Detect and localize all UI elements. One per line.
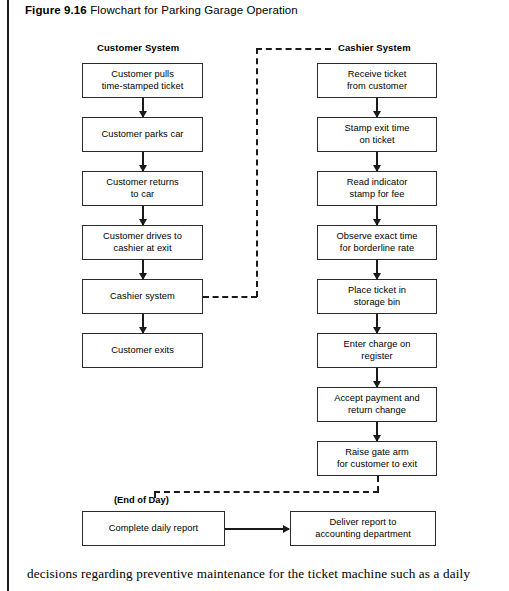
node-line-1: Cashier system bbox=[110, 291, 175, 303]
flow-node-accept-payment[interactable]: Accept payment and return change bbox=[317, 387, 437, 422]
node-line-1: Stamp exit time bbox=[345, 123, 410, 135]
flow-node-customer-parks-car[interactable]: Customer parks car bbox=[82, 117, 203, 152]
node-line-2: to car bbox=[106, 189, 179, 201]
edge-k7-k8 bbox=[376, 422, 378, 441]
edge-k5-k6 bbox=[376, 314, 378, 333]
node-line-2: cashier at exit bbox=[103, 243, 182, 255]
node-line-2: for borderline rate bbox=[337, 243, 418, 255]
edge-k1-k2 bbox=[376, 98, 378, 117]
flow-node-raise-gate-arm[interactable]: Raise gate arm for customer to exit bbox=[317, 441, 437, 476]
node-line-1: Customer pulls bbox=[102, 69, 184, 81]
flow-node-enter-charge-on-register[interactable]: Enter charge on register bbox=[317, 333, 437, 368]
node-line-1: Observe exact time bbox=[337, 231, 418, 243]
flow-node-receive-ticket[interactable]: Receive ticket from customer bbox=[317, 63, 437, 98]
figure-page: Figure 9.16 Flowchart for Parking Garage… bbox=[0, 0, 509, 591]
node-line-1: Customer returns bbox=[106, 177, 179, 189]
node-line-2: on ticket bbox=[345, 135, 410, 147]
node-line-1: Raise gate arm bbox=[337, 447, 417, 459]
flow-node-cashier-system[interactable]: Cashier system bbox=[82, 279, 203, 314]
node-line-1: Customer exits bbox=[111, 345, 174, 357]
edge-k6-k7 bbox=[376, 368, 378, 387]
flow-node-place-ticket-in-storage-bin[interactable]: Place ticket in storage bin bbox=[317, 279, 437, 314]
flow-node-observe-exact-time[interactable]: Observe exact time for borderline rate bbox=[317, 225, 437, 260]
flow-node-customer-drives-to-cashier[interactable]: Customer drives to cashier at exit bbox=[82, 225, 203, 260]
node-line-2: time-stamped ticket bbox=[102, 81, 184, 93]
figure-caption: Figure 9.16 Flowchart for Parking Garage… bbox=[25, 4, 298, 16]
node-line-1: Place ticket in bbox=[348, 285, 406, 297]
node-line-1: Customer drives to bbox=[103, 231, 182, 243]
flow-node-stamp-exit-time[interactable]: Stamp exit time on ticket bbox=[317, 117, 437, 152]
dashed-edge-cashier-system-top bbox=[256, 48, 331, 50]
node-line-2: return change bbox=[334, 405, 420, 417]
node-line-2: from customer bbox=[347, 81, 407, 93]
node-line-1: Deliver report to bbox=[315, 517, 411, 529]
end-of-day-label: (End of Day) bbox=[114, 495, 169, 505]
flow-node-complete-daily-report[interactable]: Complete daily report bbox=[82, 511, 225, 546]
edge-e1-e2 bbox=[225, 528, 289, 530]
edge-c5-c6 bbox=[142, 314, 144, 333]
dashed-edge-end-of-day-vertical bbox=[377, 476, 379, 492]
node-line-2: stamp for fee bbox=[347, 189, 408, 201]
edge-c1-c2 bbox=[142, 98, 144, 117]
column-header-cashier-system: Cashier System bbox=[338, 42, 411, 53]
dashed-edge-end-of-day-horizontal bbox=[154, 491, 379, 493]
node-line-1: Read indicator bbox=[347, 177, 408, 189]
figure-number: Figure 9.16 bbox=[25, 4, 87, 16]
column-header-customer-system: Customer System bbox=[97, 42, 179, 53]
edge-k3-k4 bbox=[376, 206, 378, 225]
edge-c2-c3 bbox=[142, 152, 144, 171]
node-line-1: Enter charge on bbox=[344, 339, 411, 351]
edge-c3-c4 bbox=[142, 206, 144, 225]
node-line-1: Accept payment and bbox=[334, 393, 420, 405]
edge-k4-k5 bbox=[376, 260, 378, 279]
flow-node-customer-exits[interactable]: Customer exits bbox=[82, 333, 203, 368]
node-line-1: Receive ticket bbox=[347, 69, 407, 81]
edge-k2-k3 bbox=[376, 152, 378, 171]
edge-c4-c5 bbox=[142, 260, 144, 279]
flow-node-customer-pulls-ticket[interactable]: Customer pulls time-stamped ticket bbox=[82, 63, 203, 98]
body-paragraph-text: decisions regarding preventive maintenan… bbox=[27, 566, 497, 582]
figure-title: Flowchart for Parking Garage Operation bbox=[90, 4, 298, 16]
dashed-edge-cashier-system-horizontal bbox=[203, 296, 257, 298]
node-line-2: for customer to exit bbox=[337, 459, 417, 471]
dashed-edge-cashier-system-vertical bbox=[256, 48, 258, 297]
page-left-rule bbox=[7, 0, 9, 591]
node-line-2: accounting department bbox=[315, 529, 411, 541]
node-line-2: storage bin bbox=[348, 297, 406, 309]
flow-node-deliver-report[interactable]: Deliver report to accounting department bbox=[290, 511, 436, 546]
flow-node-customer-returns-to-car[interactable]: Customer returns to car bbox=[82, 171, 203, 206]
node-line-1: Customer parks car bbox=[101, 129, 183, 141]
node-line-1: Complete daily report bbox=[109, 523, 198, 535]
flow-node-read-indicator-stamp[interactable]: Read indicator stamp for fee bbox=[317, 171, 437, 206]
node-line-2: register bbox=[344, 351, 411, 363]
